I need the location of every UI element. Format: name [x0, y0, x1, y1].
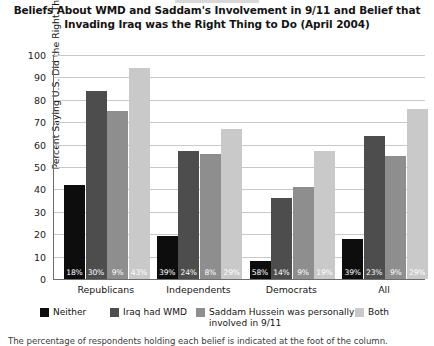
chart-title: Beliefs About WMD and Saddam's Involveme… [10, 4, 424, 31]
bar-value-label: 29% [407, 268, 428, 277]
legend-swatch-icon [355, 308, 364, 317]
chart-title-line-1: Beliefs About WMD and Saddam's Involveme… [10, 4, 424, 18]
bar[interactable]: 43% [129, 68, 150, 279]
bar-value-label: 58% [250, 268, 271, 277]
bar[interactable]: 39% [157, 236, 178, 279]
bar[interactable]: 23% [364, 136, 385, 279]
x-axis-category-label: All [329, 284, 434, 295]
bar[interactable]: 19% [314, 151, 335, 279]
bar-value-label: 9% [107, 268, 128, 277]
legend-swatch-icon [40, 308, 49, 317]
bar[interactable]: 24% [178, 151, 199, 279]
bar-group: 18%30%9%43% [64, 55, 150, 279]
chart-footnote: The percentage of respondents holding ea… [8, 337, 428, 346]
y-axis-tick-label: 70 [0, 117, 46, 128]
plot-area: 18%30%9%43%39%24%8%29%58%14%9%19%39%23%9… [53, 55, 425, 280]
legend-item[interactable]: Saddam Hussein was personally involved i… [196, 307, 354, 329]
legend-item[interactable]: Neither [40, 307, 86, 318]
bar[interactable]: 39% [342, 239, 363, 279]
bar[interactable]: 30% [86, 91, 107, 279]
y-axis-tick-label: 10 [0, 251, 46, 262]
legend-item[interactable]: Iraq had WMD [110, 307, 187, 318]
y-axis-tick-label: 0 [0, 274, 46, 285]
legend-label: Saddam Hussein was personally involved i… [209, 307, 354, 329]
bar-value-label: 23% [364, 268, 385, 277]
bar-group: 39%23%9%29% [342, 55, 428, 279]
bar-group: 58%14%9%19% [250, 55, 336, 279]
y-axis-tick-label: 30 [0, 206, 46, 217]
bar-value-label: 39% [342, 268, 363, 277]
chart-legend: NeitherIraq had WMDSaddam Hussein was pe… [0, 303, 434, 333]
bar[interactable]: 8% [200, 154, 221, 279]
y-axis-tick-label: 40 [0, 184, 46, 195]
bar-value-label: 30% [86, 268, 107, 277]
bar-value-label: 8% [200, 268, 221, 277]
bar[interactable]: 9% [385, 156, 406, 279]
bar-value-label: 14% [271, 268, 292, 277]
bar[interactable]: 9% [107, 111, 128, 279]
bar-value-label: 29% [221, 268, 242, 277]
legend-label: Both [368, 307, 389, 318]
bar-group: 39%24%8%29% [157, 55, 243, 279]
y-axis-tick-label: 80 [0, 94, 46, 105]
legend-label: Iraq had WMD [123, 307, 187, 318]
bar-value-label: 18% [64, 268, 85, 277]
legend-swatch-icon [110, 308, 119, 317]
bar[interactable]: 58% [250, 261, 271, 279]
bar-value-label: 43% [129, 268, 150, 277]
bar[interactable]: 18% [64, 185, 85, 279]
legend-swatch-icon [196, 308, 205, 317]
bar-value-label: 9% [293, 268, 314, 277]
y-axis-tick-label: 100 [0, 50, 46, 61]
y-axis-tick-label: 20 [0, 229, 46, 240]
bar-value-label: 19% [314, 268, 335, 277]
bar[interactable]: 29% [407, 109, 428, 279]
chart-title-line-2: Invading Iraq was the Right Thing to Do … [10, 18, 424, 32]
y-axis-tick-label: 50 [0, 162, 46, 173]
y-axis-tick-label: 90 [0, 72, 46, 83]
bar[interactable]: 9% [293, 187, 314, 279]
legend-item[interactable]: Both [355, 307, 389, 318]
bar[interactable]: 14% [271, 198, 292, 279]
bar-value-label: 24% [178, 268, 199, 277]
scan-artifact [175, 0, 259, 3]
y-axis-tick-label: 60 [0, 139, 46, 150]
y-axis-tick-labels: 0102030405060708090100 [0, 0, 48, 346]
legend-label: Neither [53, 307, 86, 318]
bar-value-label: 39% [157, 268, 178, 277]
bar-value-label: 9% [385, 268, 406, 277]
bar[interactable]: 29% [221, 129, 242, 279]
